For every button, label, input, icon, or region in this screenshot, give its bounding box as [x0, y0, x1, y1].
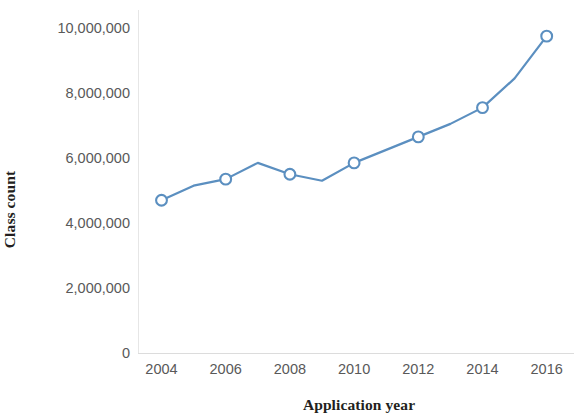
data-point-marker[interactable]	[349, 157, 360, 168]
x-axis-tick-labels: 2004200620082010201220142016	[0, 362, 579, 384]
series-polyline	[162, 36, 547, 200]
y-tick-label: 6,000,000	[30, 151, 130, 166]
data-point-marker[interactable]	[413, 131, 424, 142]
data-point-marker[interactable]	[156, 195, 167, 206]
data-point-marker[interactable]	[285, 169, 296, 180]
plot-area	[138, 8, 574, 354]
y-tick-label: 2,000,000	[30, 281, 130, 296]
x-axis-title-text: Application year	[303, 396, 415, 413]
data-point-marker[interactable]	[541, 31, 552, 42]
series-line-class-count	[138, 8, 574, 354]
y-tick-label: 10,000,000	[30, 21, 130, 36]
x-tick-label: 2016	[507, 362, 579, 377]
y-tick-label: 0	[30, 346, 130, 361]
x-axis-title: Application year	[139, 396, 579, 414]
y-tick-label: 4,000,000	[30, 216, 130, 231]
y-axis-title-text: Class count	[1, 171, 19, 248]
data-point-marker[interactable]	[477, 102, 488, 113]
y-tick-label: 8,000,000	[30, 86, 130, 101]
y-axis-tick-labels: 10,000,0008,000,0006,000,0004,000,0002,0…	[22, 0, 130, 419]
data-point-marker[interactable]	[220, 174, 231, 185]
line-chart: 10,000,0008,000,0006,000,0004,000,0002,0…	[0, 0, 579, 419]
